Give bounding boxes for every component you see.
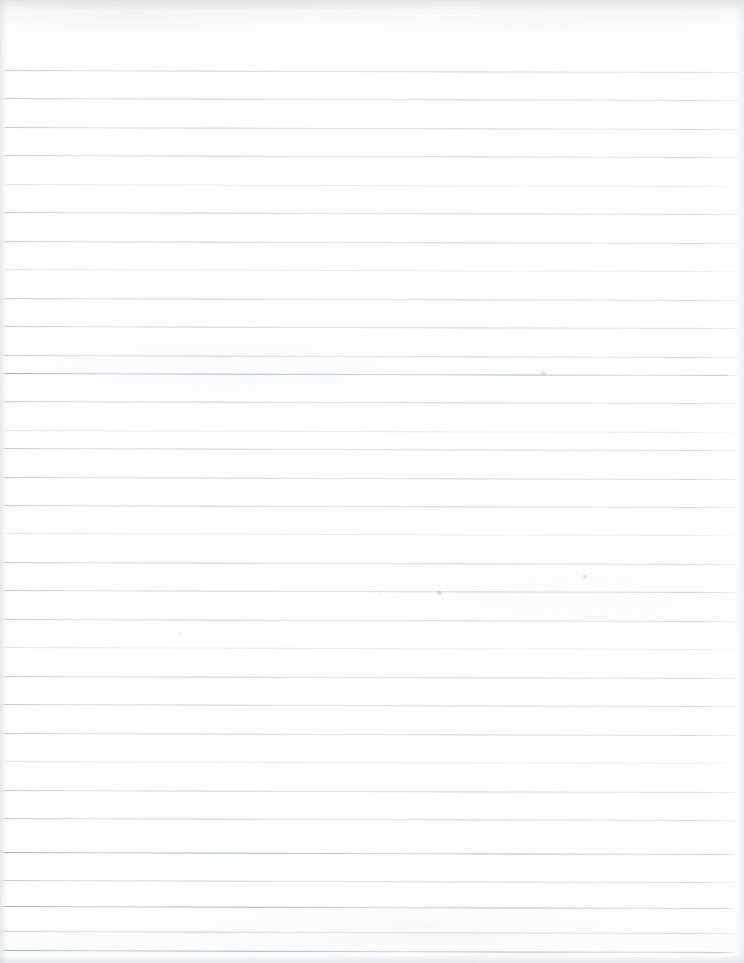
writing-area — [0, 0, 744, 963]
scanned-page — [0, 0, 744, 963]
